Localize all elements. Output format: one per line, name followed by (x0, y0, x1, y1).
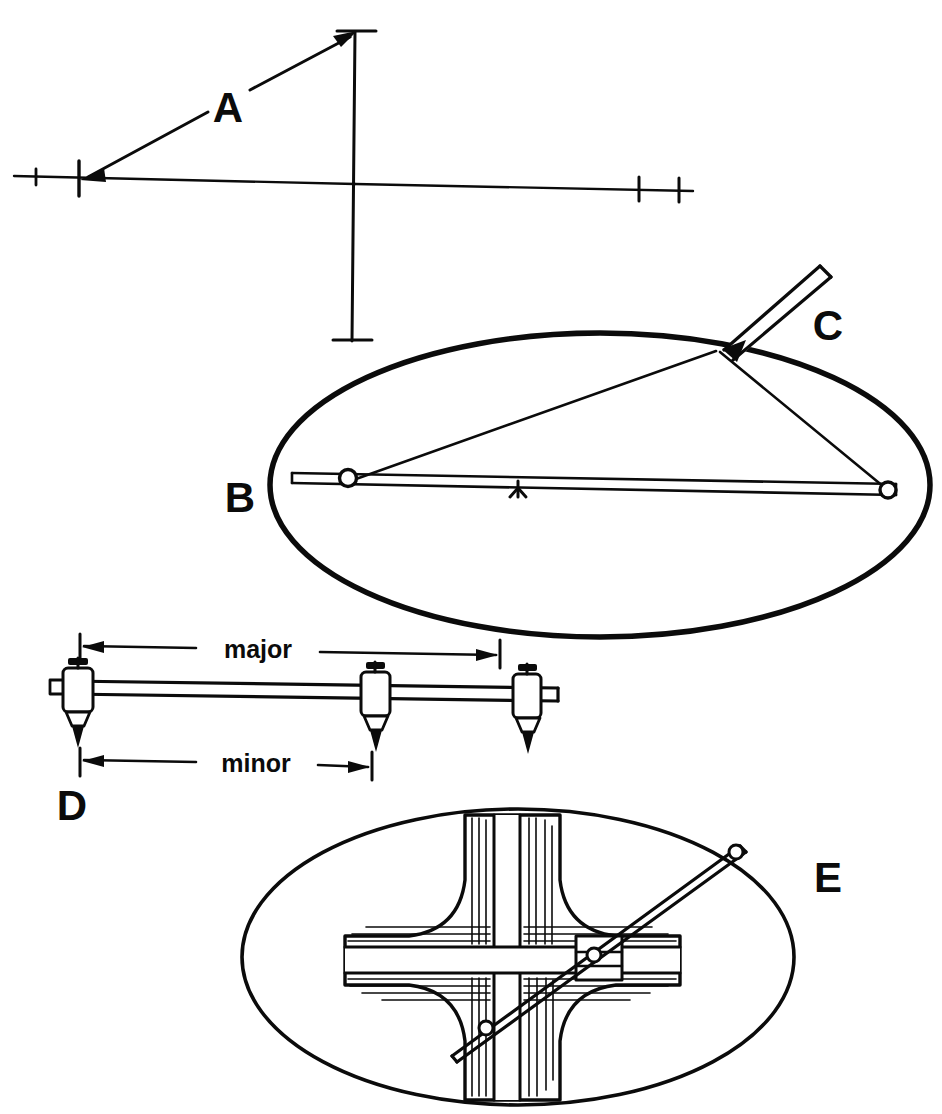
trammel-holder-major-pin[interactable] (63, 658, 93, 748)
string-segment-right (720, 352, 884, 487)
trammel-bar-top-rail (66, 681, 558, 688)
trammel-bar-bottom-rail (66, 694, 558, 701)
minor-dimension-label: minor (221, 749, 291, 777)
ellipse-construction-figure: A (0, 0, 942, 1114)
cruciform-horizontal-groove (345, 947, 680, 973)
panel-label-d: D (57, 782, 87, 829)
panel-label-e: E (814, 854, 842, 901)
panel-label-c: C (813, 302, 843, 349)
vertical-axis-line (352, 32, 355, 341)
transfer-arrow-shaft-upper (250, 37, 350, 90)
panel-d-trammel-bar: major (50, 634, 558, 829)
panel-e-ellipsograph: E (242, 809, 842, 1105)
horizontal-axis-line-left (14, 176, 355, 184)
trammel-holder-minor-pin[interactable] (361, 662, 390, 752)
panel-label-b: B (225, 474, 255, 521)
figure-canvas: A (0, 0, 942, 1114)
trammel-holder-end-pin[interactable] (513, 664, 541, 754)
rod-center-marker-icon (510, 481, 526, 497)
transfer-arrow-head-bottom (80, 168, 106, 182)
panel-b-string-and-pins: B C (225, 266, 930, 637)
major-axis-rod-bottom-edge (292, 483, 896, 495)
major-dimension-label: major (224, 635, 292, 663)
panel-a-axes-layout: A (14, 31, 693, 341)
panel-label-a: A (213, 84, 243, 131)
transfer-arrow-shaft-lower (88, 112, 208, 177)
major-axis-rod-top-edge (292, 473, 896, 484)
string-segment-left (356, 351, 716, 479)
horizontal-axis-line-right (355, 184, 693, 191)
